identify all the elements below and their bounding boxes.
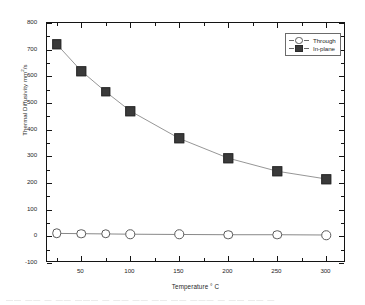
scan-artifact-text: —— —— — —— ——— — —— —— —— —— ——— — —— ——… (6, 296, 359, 303)
legend-sample-in-plane (289, 45, 311, 53)
legend-dash-right-icon (304, 48, 309, 49)
x-axis-label: Temperature ° C (46, 283, 345, 290)
y-tick-major-right (339, 263, 344, 264)
x-tick-label: 300 (311, 267, 339, 274)
y-tick-label: 100 (0, 205, 37, 212)
plot-area: Through In-plane (46, 22, 345, 262)
y-tick-label: -100 (0, 258, 37, 265)
x-tick-label: 100 (115, 267, 143, 274)
legend-dash-left-icon (289, 48, 294, 49)
legend: Through In-plane (285, 33, 341, 56)
y-tick-label: 600 (0, 71, 37, 78)
y-tick-label: 700 (0, 45, 37, 52)
x-tick-label: 150 (164, 267, 192, 274)
y-tick-label: 800 (0, 18, 37, 25)
y-tick-major (47, 263, 52, 264)
legend-label-in-plane: In-plane (313, 45, 335, 52)
legend-dash-right-icon (304, 40, 309, 41)
x-tick-label: 200 (213, 267, 241, 274)
x-tick-label: 250 (262, 267, 290, 274)
series-lines (47, 23, 346, 263)
legend-item-through: Through (289, 37, 336, 45)
open-circle-marker-icon (295, 37, 303, 45)
legend-sample-through (289, 37, 311, 45)
y-tick-label: 400 (0, 125, 37, 132)
y-tick-label: 300 (0, 151, 37, 158)
legend-label-through: Through (313, 37, 336, 44)
line-through (57, 233, 327, 235)
y-axis-label-suffix: /s (21, 64, 28, 69)
y-tick-label: 0 (0, 231, 37, 238)
y-tick-label: 200 (0, 178, 37, 185)
x-tick-label: 50 (66, 267, 94, 274)
legend-item-in-plane: In-plane (289, 45, 336, 53)
legend-dash-left-icon (289, 40, 294, 41)
y-tick-label: 500 (0, 98, 37, 105)
thermal-diffusivity-figure: Thermal Diffusivity mm2/s Temperature ° … (0, 0, 365, 305)
filled-square-marker-icon (295, 45, 303, 53)
line-in-plane (57, 44, 327, 179)
